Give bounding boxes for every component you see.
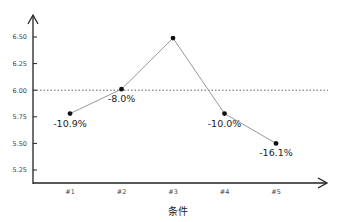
y-tick-label: 6.25 — [13, 60, 27, 68]
y-tick-label: 5.75 — [13, 113, 27, 121]
data-labels: -10.9%-8.0%-10.0%-16.1% — [53, 93, 293, 158]
x-tick-label: #1 — [65, 188, 75, 196]
data-label: -10.0% — [208, 118, 242, 129]
x-tick-label: #4 — [220, 188, 230, 196]
data-label: -8.0% — [108, 93, 136, 104]
y-tick-label: 5.25 — [13, 166, 27, 174]
line-chart: 5.255.505.756.006.256.50 #1#2#3#4#5 -10.… — [0, 0, 341, 222]
data-point — [274, 141, 279, 146]
x-tick-label: #5 — [271, 188, 281, 196]
y-tick-label: 6.00 — [13, 87, 27, 95]
data-label: -16.1% — [259, 147, 293, 158]
data-point — [119, 87, 124, 92]
x-tick-label: #2 — [117, 188, 127, 196]
x-axis — [33, 178, 327, 188]
data-label: -10.9% — [53, 118, 87, 129]
y-tick-label: 5.50 — [13, 140, 27, 148]
data-point — [171, 36, 176, 41]
x-axis-title: 条件 — [168, 205, 188, 217]
y-tick-label: 6.50 — [13, 33, 27, 41]
series-line — [70, 38, 276, 143]
y-axis — [28, 15, 38, 184]
data-point — [222, 111, 227, 116]
x-ticks: #1#2#3#4#5 — [65, 188, 281, 196]
x-tick-label: #3 — [168, 188, 178, 196]
data-point — [68, 111, 73, 116]
data-points — [68, 36, 279, 146]
